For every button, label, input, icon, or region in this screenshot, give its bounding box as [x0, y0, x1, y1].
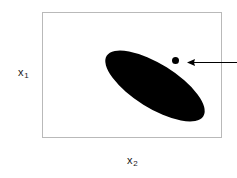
- outlier-point-marker: [172, 57, 179, 64]
- pointer-arrow-icon: [183, 54, 237, 71]
- y-axis-label: x1: [18, 67, 28, 78]
- figure-canvas: x1 x2: [0, 0, 237, 178]
- x-axis-label: x2: [127, 155, 137, 166]
- data-cluster-ellipse: [95, 37, 215, 135]
- x-axis-label-subscript: 2: [133, 159, 138, 168]
- x-axis-label-base: x: [127, 154, 133, 166]
- y-axis-label-base: x: [18, 66, 24, 78]
- plot-frame: [42, 12, 222, 138]
- y-axis-label-subscript: 1: [24, 71, 29, 80]
